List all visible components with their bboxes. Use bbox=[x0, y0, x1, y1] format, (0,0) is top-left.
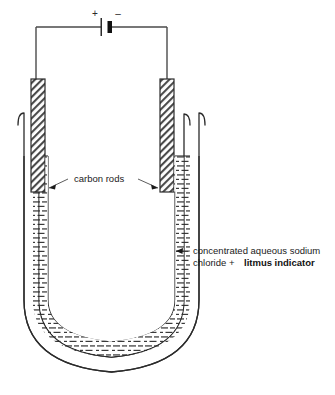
carbon-rod-left bbox=[31, 79, 45, 192]
carbon-rod-left-body bbox=[31, 79, 45, 192]
electrolysis-diagram: + – bbox=[0, 0, 335, 395]
battery-positive-plate bbox=[101, 18, 103, 36]
carbon-rod-right bbox=[160, 79, 174, 192]
carbon-rod-right-body bbox=[160, 79, 174, 192]
battery-cell bbox=[101, 18, 113, 36]
liquid-left-of-right-rod bbox=[174, 157, 176, 192]
label-electrolyte-line2-bold: litmus indicator bbox=[244, 257, 315, 268]
battery-negative-sign: – bbox=[115, 8, 121, 19]
liquid-col-right bbox=[175, 157, 183, 303]
battery-negative-plate bbox=[108, 21, 113, 33]
label-carbon-rods: carbon rods bbox=[74, 173, 124, 184]
diagram-canvas: + – bbox=[0, 0, 335, 395]
u-tube-hollow-interior bbox=[48, 100, 175, 342]
battery-positive-sign: + bbox=[92, 8, 98, 19]
label-electrolyte-line1: concentrated aqueous sodium bbox=[193, 245, 320, 256]
liquid-right-of-left-rod bbox=[46, 157, 48, 192]
label-electrolyte-line2-plain: chloride + bbox=[193, 257, 235, 268]
